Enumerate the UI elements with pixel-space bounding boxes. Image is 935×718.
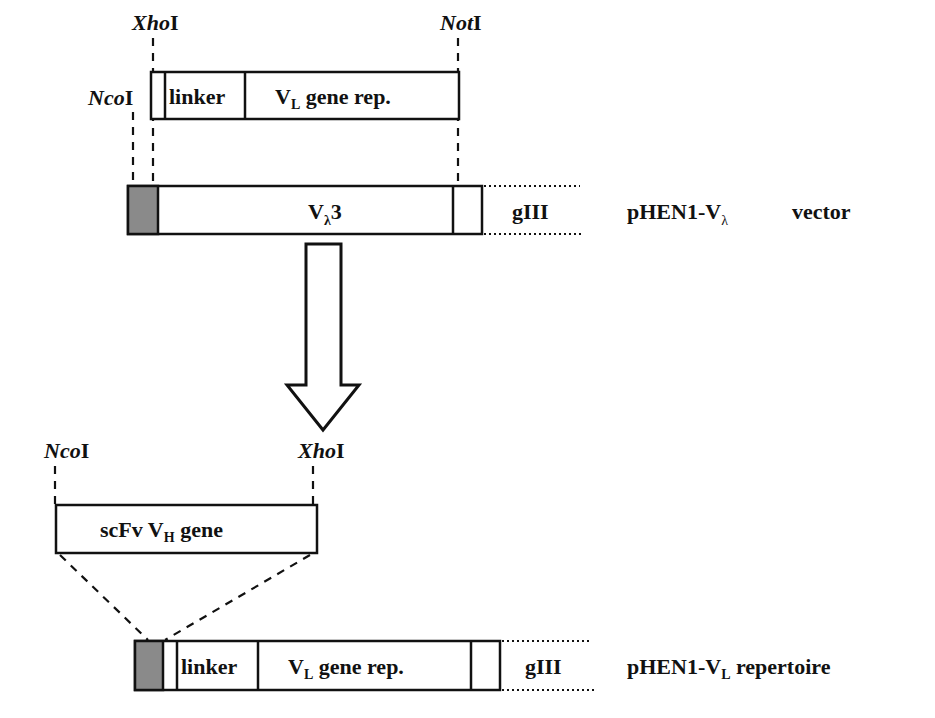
vh-insert: NcoI XhoI scFv VH gene: [43, 438, 344, 640]
leader-tag: [128, 186, 158, 234]
giii-label: gIII: [512, 199, 549, 224]
linker-label: linker: [169, 84, 225, 109]
giii-label: gIII: [525, 654, 562, 679]
vector-word-label: vector: [792, 199, 851, 224]
repertoire-construct: linker VL gene rep. gIII pHEN1-VL repert…: [135, 641, 831, 690]
vector-box: [128, 186, 482, 234]
ncoi-site-label: NcoI: [87, 85, 133, 110]
leader-tag: [135, 641, 163, 690]
xhoi-site-label: XhoI: [131, 10, 178, 35]
noti-site-label: NotI: [439, 10, 482, 35]
ncoi-site-label-bottom: NcoI: [43, 438, 89, 463]
cloning-diagram: XhoI NotI linker VL gene rep. NcoI Vλ3 g…: [0, 0, 935, 718]
xhoi-site-label-bottom: XhoI: [297, 438, 344, 463]
scfv-vh-label: scFv VH gene: [100, 517, 223, 545]
top-insert: XhoI NotI linker VL gene rep.: [131, 10, 482, 186]
down-arrow-icon: [287, 244, 359, 430]
insertion-line-left: [60, 555, 148, 640]
insertion-line-right: [165, 555, 310, 640]
linker-label: linker: [181, 654, 237, 679]
vector-name-label: pHEN1-Vλ: [627, 199, 728, 228]
repertoire-name-label: pHEN1-VL repertoire: [627, 654, 831, 682]
